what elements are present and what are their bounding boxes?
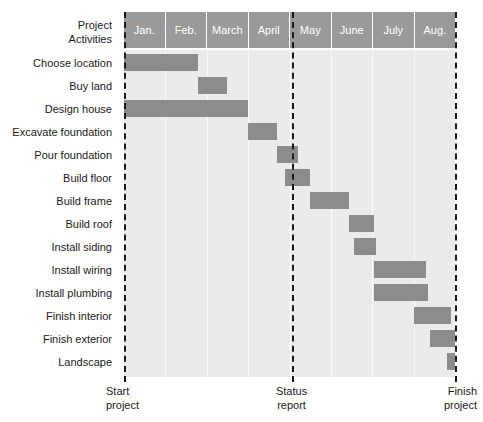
activity-label: Design house — [0, 101, 118, 117]
activity-label: Install plumbing — [0, 285, 118, 301]
gantt-bar[interactable] — [198, 77, 227, 94]
activity-label: Build floor — [0, 170, 118, 186]
month-label: Aug. — [423, 24, 446, 36]
activity-label: Excavate foundation — [0, 124, 118, 140]
milestone-caption-line1: Finish — [367, 384, 477, 398]
gantt-bar[interactable] — [414, 307, 451, 324]
project-activities-header: Project Activities — [0, 12, 118, 52]
gantt-bar[interactable] — [277, 146, 298, 163]
activity-label: Build roof — [0, 216, 118, 232]
gantt-bar[interactable] — [248, 123, 277, 140]
milestone-caption-line2: project — [367, 398, 477, 412]
activity-label: Finish interior — [0, 308, 118, 324]
activity-label: Buy land — [0, 78, 118, 94]
milestone-caption-line1: Start — [106, 384, 216, 398]
vertical-gridline — [372, 50, 373, 377]
milestone-caption: Startproject — [106, 384, 216, 412]
vertical-gridline — [414, 50, 415, 377]
gantt-bar[interactable] — [430, 330, 455, 347]
vertical-gridline — [331, 50, 332, 377]
month-header-cell-april: April — [249, 12, 291, 48]
activity-label: Choose location — [0, 55, 118, 71]
activity-label: Install wiring — [0, 262, 118, 278]
milestone-caption: Statusreport — [237, 384, 347, 412]
vertical-gridline — [290, 50, 291, 377]
activity-label: Landscape — [0, 354, 118, 370]
milestone-caption-line2: report — [237, 398, 347, 412]
month-header-cell-july: July — [373, 12, 415, 48]
milestone-caption-line2: project — [106, 398, 216, 412]
month-header-cell-may: May — [290, 12, 332, 48]
gantt-bar[interactable] — [374, 284, 428, 301]
milestone-caption-line1: Status — [237, 384, 347, 398]
month-header-cell-jan: Jan. — [124, 12, 166, 48]
gantt-bar[interactable] — [285, 169, 310, 186]
month-label: March — [212, 24, 243, 36]
gantt-bar[interactable] — [310, 192, 349, 209]
gantt-chart: Project Activities Jan.Feb.MarchAprilMay… — [0, 0, 483, 422]
month-header-row: Jan.Feb.MarchAprilMayJuneJulyAug. — [124, 12, 455, 48]
milestone-caption: Finishproject — [367, 384, 477, 412]
month-header-cell-aug: Aug. — [415, 12, 456, 48]
corner-label-line2: Activities — [69, 32, 112, 46]
milestone-line — [124, 12, 126, 382]
month-label: April — [258, 24, 280, 36]
vertical-gridline — [248, 50, 249, 377]
gantt-plot-area — [124, 50, 455, 377]
corner-label-line1: Project — [78, 18, 112, 32]
month-header-cell-june: June — [332, 12, 374, 48]
month-label: May — [300, 24, 321, 36]
milestone-line — [455, 12, 457, 382]
gantt-bar[interactable] — [124, 54, 198, 71]
activity-label: Finish exterior — [0, 331, 118, 347]
gantt-bar[interactable] — [374, 261, 426, 278]
activity-label: Pour foundation — [0, 147, 118, 163]
month-label: July — [383, 24, 403, 36]
activity-label: Build frame — [0, 193, 118, 209]
gantt-bar[interactable] — [447, 353, 455, 370]
gantt-bar[interactable] — [354, 238, 377, 255]
month-header-cell-march: March — [207, 12, 249, 48]
milestone-line — [292, 12, 294, 382]
month-header-cell-feb: Feb. — [166, 12, 208, 48]
month-label: Feb. — [175, 24, 197, 36]
month-label: Jan. — [134, 24, 155, 36]
month-label: June — [340, 24, 364, 36]
gantt-bar[interactable] — [124, 100, 248, 117]
activity-label: Install siding — [0, 239, 118, 255]
gantt-bar[interactable] — [349, 215, 374, 232]
